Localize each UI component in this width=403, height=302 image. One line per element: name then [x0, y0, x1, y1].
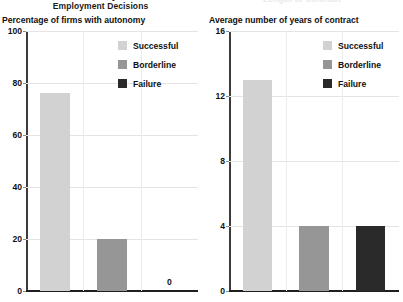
panel-right-axis-title: Average number of years of contract	[209, 15, 359, 25]
bar-value-label-failure: 0	[167, 277, 172, 287]
panel-right-suptitle-line1: Length of Contract	[201, 0, 403, 4]
legend-swatch-borderline-icon	[118, 60, 127, 69]
gridline	[229, 31, 399, 32]
y-axis-line-left	[26, 31, 28, 291]
legend-swatch-borderline-icon	[323, 60, 332, 69]
y-axis-tick-mark	[226, 226, 229, 227]
bar-successful	[243, 80, 272, 291]
legend-label-successful: Successful	[133, 41, 178, 51]
legend-left: Successful Borderline Failure	[118, 36, 178, 93]
legend-right: Successful Borderline Failure	[323, 36, 383, 93]
legend-item-successful: Successful	[118, 36, 178, 55]
y-axis-tick-mark	[23, 135, 26, 136]
y-axis-tick-mark	[23, 31, 26, 32]
legend-label-borderline: Borderline	[133, 60, 176, 70]
legend-label-borderline: Borderline	[338, 60, 381, 70]
legend-swatch-failure-icon	[118, 79, 127, 88]
y-axis-tick-label: 8	[220, 156, 225, 166]
legend-label-successful: Successful	[338, 41, 383, 51]
legend-label-failure: Failure	[133, 79, 161, 89]
y-axis-tick-mark	[23, 83, 26, 84]
y-axis-tick-mark	[23, 187, 26, 188]
y-axis-tick-label: 0	[220, 286, 225, 296]
y-axis-tick-mark	[23, 291, 26, 292]
legend-item-failure: Failure	[118, 74, 178, 93]
y-axis-tick-label: 0	[17, 286, 22, 296]
y-axis-tick-mark	[23, 239, 26, 240]
y-axis-tick-mark	[226, 96, 229, 97]
legend-item-borderline: Borderline	[118, 55, 178, 74]
y-axis-tick-label: 100	[8, 26, 22, 36]
y-axis-tick-mark	[226, 161, 229, 162]
y-axis-tick-label: 16	[215, 26, 225, 36]
y-axis-tick-label: 60	[12, 130, 22, 140]
gridline	[26, 31, 198, 32]
bar-borderline	[299, 226, 328, 291]
legend-item-successful: Successful	[323, 36, 383, 55]
legend-label-failure: Failure	[338, 79, 366, 89]
legend-swatch-successful-icon	[323, 41, 332, 50]
bar-successful	[40, 93, 70, 291]
y-axis-tick-mark	[226, 31, 229, 32]
legend-item-borderline: Borderline	[323, 55, 383, 74]
legend-swatch-failure-icon	[323, 79, 332, 88]
panel-left-suptitle-line2: Employment Decisions	[0, 1, 201, 11]
bar-failure	[356, 226, 385, 291]
legend-swatch-successful-icon	[118, 41, 127, 50]
y-axis-tick-label: 20	[12, 234, 22, 244]
panel-left-axis-title: Percentage of firms with autonomy	[2, 15, 145, 25]
figure-container: Autonomy in Employment Decisions Percent…	[0, 0, 403, 302]
legend-item-failure: Failure	[323, 74, 383, 93]
y-axis-tick-mark	[226, 291, 229, 292]
chart-panel-right: Length of Contract Average number of yea…	[201, 0, 403, 302]
y-axis-tick-label: 12	[215, 91, 225, 101]
y-axis-tick-label: 4	[220, 221, 225, 231]
category-separator	[83, 31, 84, 291]
category-separator	[286, 31, 287, 291]
bar-borderline	[97, 239, 127, 291]
y-axis-tick-label: 80	[12, 78, 22, 88]
chart-panel-left: Autonomy in Employment Decisions Percent…	[0, 0, 201, 302]
y-axis-tick-label: 40	[12, 182, 22, 192]
